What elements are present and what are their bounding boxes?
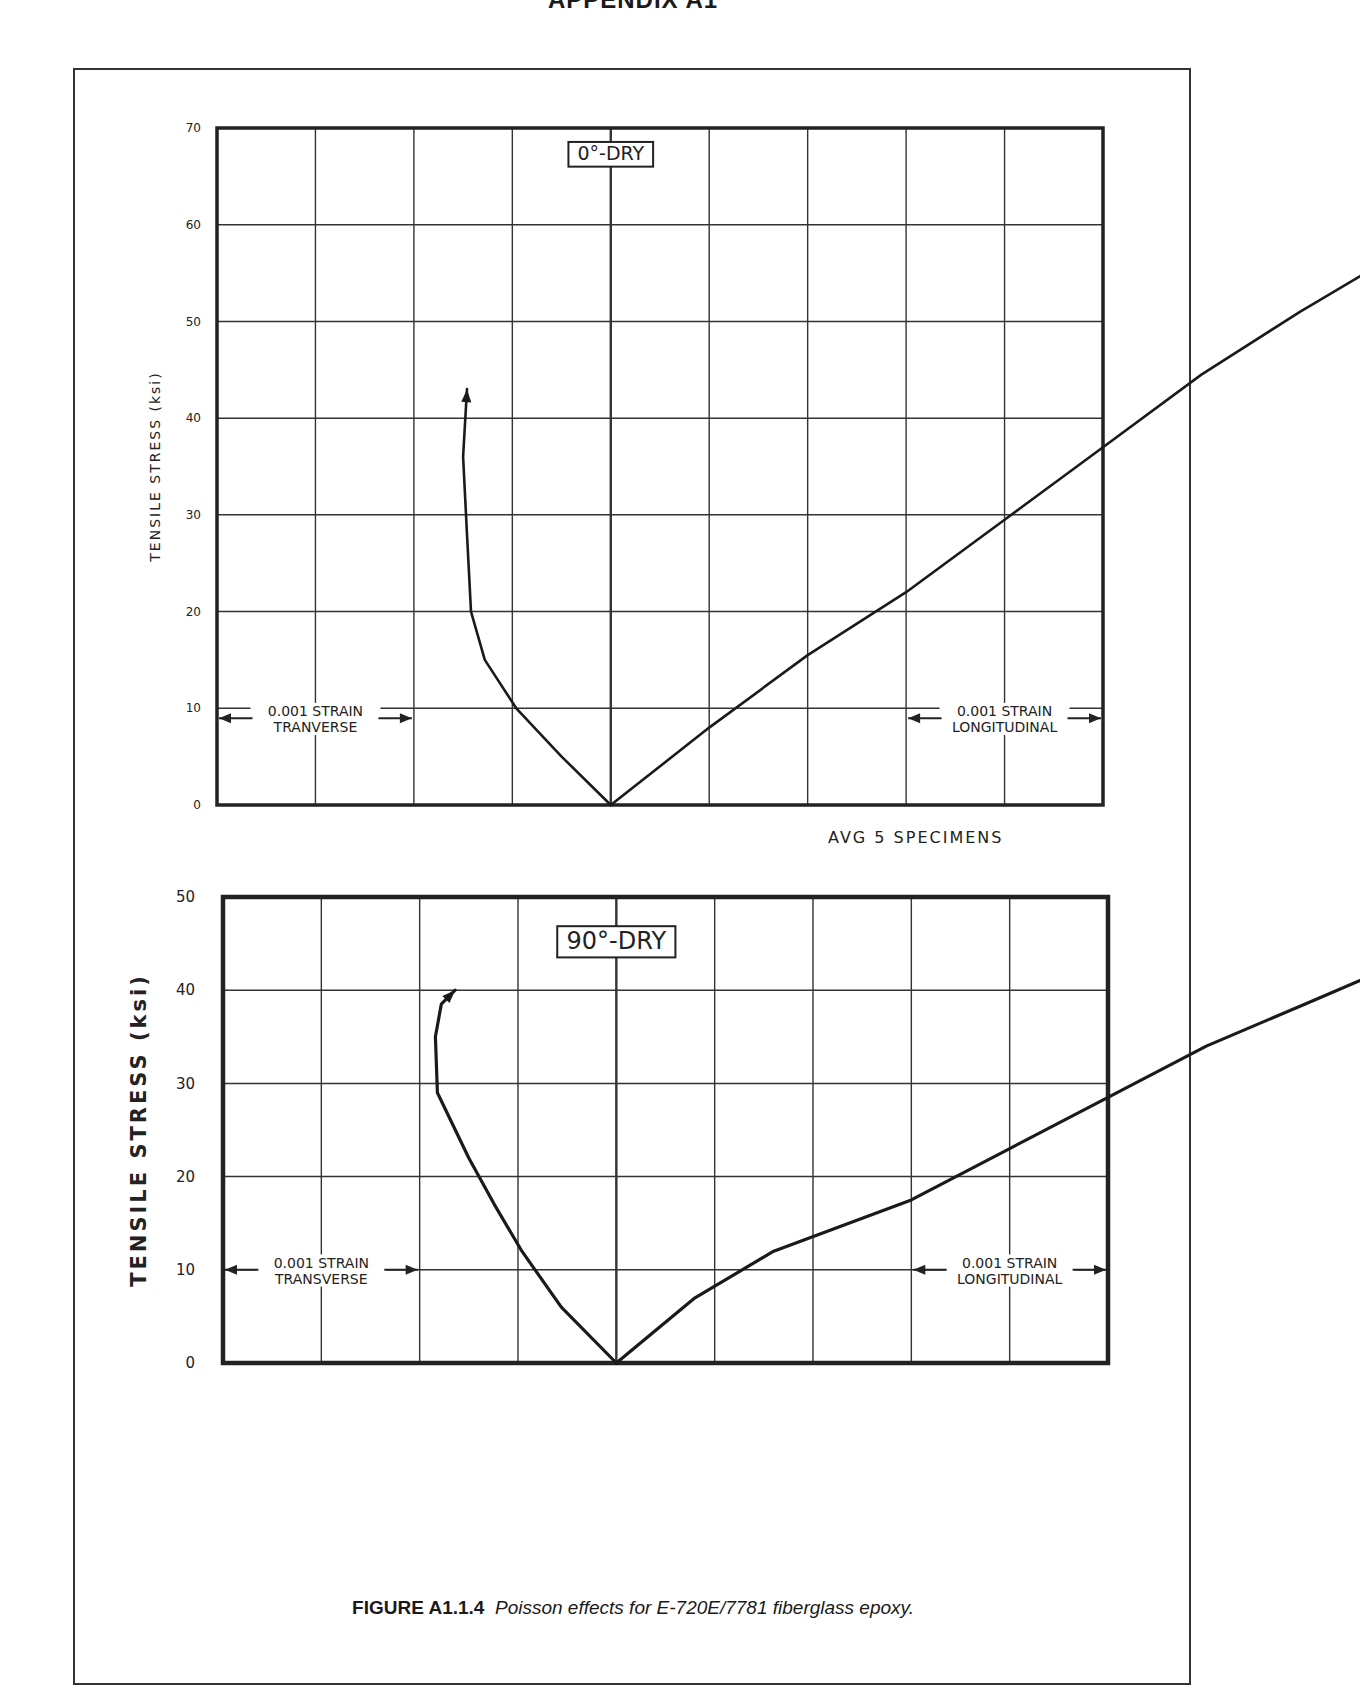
chart-title: 90°-DRY [567, 927, 667, 955]
strain-scale-value: 0.001 STRAIN [274, 1255, 369, 1271]
y-tick-label: 20 [176, 1168, 195, 1186]
plot-area: 01020304050TENSILE STRESS (ksi)90°-DRY0.… [127, 888, 1360, 1372]
strain-scale-annotation-left: 0.001 STRAINTRANSVERSE [225, 1254, 418, 1286]
curve-longitudinal [616, 909, 1360, 1363]
strain-scale-direction: TRANSVERSE [274, 1271, 368, 1287]
strain-scale-annotation-right: 0.001 STRAINLONGITUDINAL [913, 1254, 1106, 1286]
y-tick-label: 50 [176, 888, 195, 906]
y-tick-label: 40 [176, 981, 195, 999]
y-axis-label: TENSILE STRESS (ksi) [127, 973, 151, 1287]
strain-scale-value: 0.001 STRAIN [962, 1255, 1057, 1271]
y-tick-label: 10 [176, 1261, 195, 1279]
figure-label: FIGURE A1.1.4 [352, 1597, 484, 1618]
chart-90-dry: 01020304050TENSILE STRESS (ksi)90°-DRY0.… [0, 0, 1360, 1500]
arrow-right-icon [1094, 1265, 1106, 1275]
avg-specimens-note: AVG 5 SPECIMENS [828, 828, 1003, 847]
y-tick-label: 30 [176, 1075, 195, 1093]
figure-caption: FIGURE A1.1.4 Poisson effects for E-720E… [0, 1597, 1266, 1619]
arrow-left-icon [225, 1265, 237, 1275]
arrow-right-icon [406, 1265, 418, 1275]
figure-description: Poisson effects for E-720E/7781 fibergla… [495, 1597, 914, 1618]
y-tick-label: 0 [185, 1354, 195, 1372]
arrow-left-icon [913, 1265, 925, 1275]
strain-scale-direction: LONGITUDINAL [957, 1271, 1063, 1287]
plot-border [223, 897, 1108, 1363]
